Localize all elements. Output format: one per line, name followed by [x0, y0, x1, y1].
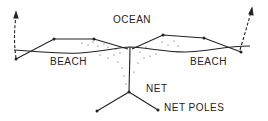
- left-arrowhead-icon: [14, 12, 18, 18]
- right-beach-net-line: [132, 35, 241, 52]
- net-main-line: [129, 48, 130, 92]
- net-label: NET: [146, 83, 168, 94]
- net-pole-left-line: [97, 92, 129, 111]
- right-arrowhead-icon: [249, 8, 253, 15]
- net-poles-label: NET POLES: [164, 102, 224, 113]
- net-pole-right-line: [129, 92, 158, 110]
- shoreline: [14, 46, 250, 53]
- right-dashed-arrow: [240, 12, 251, 50]
- ocean-label: OCEAN: [113, 14, 151, 25]
- left-dashed-arrow: [15, 16, 17, 58]
- beach-left-label: BEACH: [50, 56, 87, 67]
- beach-right-label: BEACH: [190, 56, 227, 67]
